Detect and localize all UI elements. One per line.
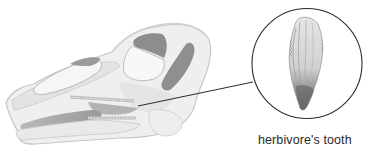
skull-illustration xyxy=(6,23,211,144)
tooth-caption: herbivore's tooth xyxy=(258,133,362,147)
